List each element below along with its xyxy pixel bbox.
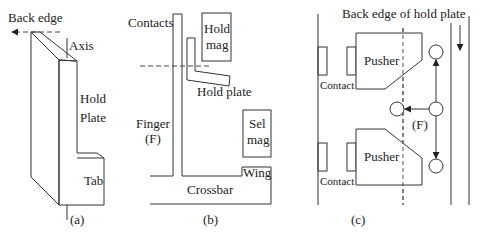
label-axis: Axis <box>69 38 94 53</box>
panel-a-hold-plate-isometric: Back edge Axis Hold Plate Tab (a) <box>8 10 107 227</box>
label-wing: Wing <box>243 165 272 180</box>
panel-b-crossbar-side-view: Contacts Hold mag Hold plate Finger (F) … <box>128 13 272 227</box>
contact-right-top <box>347 47 356 75</box>
panel-c-top-view: Back edge of hold plate Pusher Pusher Co… <box>318 6 469 227</box>
label-finger-f: (F) <box>145 131 161 146</box>
label-hold-plate: Hold plate <box>197 84 252 99</box>
label-pusher-bottom: Pusher <box>364 149 400 164</box>
label-hold-mag-1: Hold <box>204 21 231 36</box>
label-back-edge: Back edge <box>8 10 63 25</box>
hold-plate-side-face <box>31 32 59 205</box>
crossbar-switch-diagram: Back edge Axis Hold Plate Tab (a) Contac… <box>0 0 483 233</box>
label-hold: Hold <box>80 91 107 106</box>
label-contacts: Contacts <box>128 15 174 30</box>
label-finger-f: (F) <box>412 117 428 132</box>
contact-left-top <box>318 47 327 75</box>
label-crossbar: Crossbar <box>187 182 234 197</box>
contact-left-bottom <box>318 143 327 171</box>
label-tab: Tab <box>84 173 103 188</box>
label-sel: Sel <box>249 116 266 131</box>
finger-position-top <box>429 45 443 59</box>
finger-position-center <box>429 102 443 116</box>
label-back-edge-of-hold-plate: Back edge of hold plate <box>342 6 466 21</box>
label-hold-mag-2: mag <box>206 37 229 52</box>
label-contact-top: Contact <box>320 79 354 91</box>
label-pusher-top: Pusher <box>364 53 400 68</box>
caption-b: (b) <box>203 212 218 227</box>
label-finger: Finger <box>136 116 171 131</box>
contact-right-bottom <box>347 143 356 171</box>
finger-position-left <box>390 102 404 116</box>
caption-c: (c) <box>351 212 365 227</box>
label-sel-mag: mag <box>247 132 270 147</box>
caption-a: (a) <box>70 212 84 227</box>
finger-position-bottom <box>429 159 443 173</box>
label-contact-bottom: Contact <box>320 175 354 187</box>
label-plate: Plate <box>80 110 106 125</box>
